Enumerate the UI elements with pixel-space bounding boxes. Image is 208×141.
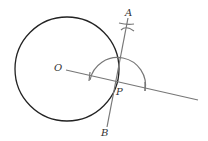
tangent-construction-diagram: O P A B	[0, 0, 208, 141]
circle-O	[15, 17, 119, 121]
line-AB-tangent	[107, 18, 128, 127]
line-OP	[66, 70, 198, 100]
label-B: B	[100, 127, 108, 138]
cross-arc-2	[121, 28, 134, 31]
label-A: A	[124, 7, 132, 18]
label-P: P	[115, 86, 123, 97]
label-O: O	[54, 62, 62, 73]
